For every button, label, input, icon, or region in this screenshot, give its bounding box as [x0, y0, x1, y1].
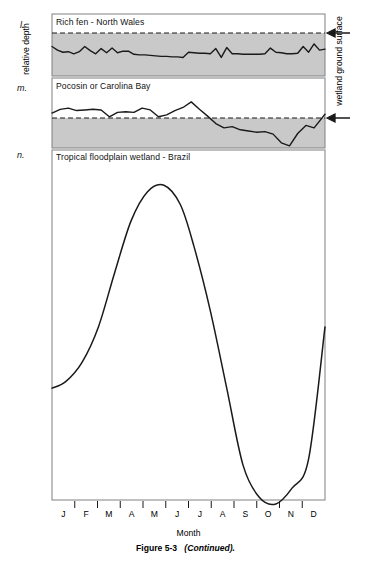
month-label-D-12: D: [303, 509, 325, 519]
figure-caption: Figure 5-3 (Continued).: [0, 543, 371, 553]
panel-l-shaded-below-ground: [52, 33, 325, 76]
month-label-F-2: F: [75, 509, 97, 519]
month-label-A-8: A: [212, 509, 234, 519]
month-label-J-7: J: [189, 509, 211, 519]
month-label-J-6: J: [166, 509, 188, 519]
panel-n-frame: [52, 150, 325, 500]
figure-container: l. m. n. Rich fen - North Wales Pocosin …: [0, 0, 371, 571]
panel-l-ground-surface-arrow: [327, 29, 350, 37]
panel-m-group: [52, 78, 350, 148]
hydrograph-plots: [0, 0, 371, 571]
month-label-O-10: O: [257, 509, 279, 519]
month-label-J-1: J: [52, 509, 74, 519]
month-label-M-5: M: [143, 509, 165, 519]
month-label-M-3: M: [98, 509, 120, 519]
panel-n-water-level-curve: [52, 184, 325, 504]
panel-l-group: [52, 14, 350, 76]
panel-m-ground-surface-arrow: [327, 114, 350, 122]
month-label-N-11: N: [280, 509, 302, 519]
caption-label: Figure 5-3: [136, 543, 177, 553]
caption-note: (Continued).: [184, 543, 235, 553]
panel-n-group: [52, 150, 325, 508]
month-label-S-9: S: [234, 509, 256, 519]
month-label-A-4: A: [121, 509, 143, 519]
